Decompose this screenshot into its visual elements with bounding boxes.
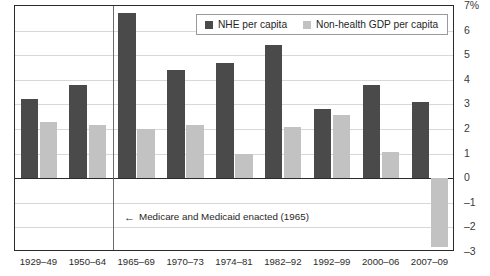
x-axis-tick-label: 2007–09 [405, 256, 454, 268]
legend-item-nhe: NHE per capita [205, 19, 287, 30]
bar-group [308, 6, 357, 250]
legend-label-nhe: NHE per capita [218, 19, 287, 30]
bar-nhe-per-capita [314, 109, 331, 178]
y-axis-tick-label: 4 [464, 74, 470, 84]
x-axis-tick-label: 2000–06 [356, 256, 405, 268]
y-axis-tick-label: 0 [464, 172, 470, 182]
bar-nhe-per-capita [118, 13, 135, 178]
x-axis-tick-label: 1950–64 [63, 256, 112, 268]
legend-label-gdp: Non-health GDP per capita [316, 19, 438, 30]
y-axis-tick-label: 5 [464, 49, 470, 59]
bar-non-health-gdp-per-capita [186, 125, 203, 178]
bar-nhe-per-capita [216, 63, 233, 179]
bar-non-health-gdp-per-capita [333, 115, 350, 178]
x-axis-tick-label: 1992–99 [307, 256, 356, 268]
x-axis-labels: 1929–491950–641965–691970–731974–811982–… [14, 256, 454, 276]
bar-nhe-per-capita [167, 70, 184, 178]
bar-non-health-gdp-per-capita [382, 152, 399, 178]
bar-non-health-gdp-per-capita [40, 122, 57, 179]
x-axis-tick-label: 1982–92 [258, 256, 307, 268]
y-axis-tick-label: –2 [464, 221, 476, 231]
bar-group [357, 6, 406, 250]
x-axis-tick-label: 1974–81 [210, 256, 259, 268]
y-axis-tick-label: 7% [464, 0, 479, 10]
bar-non-health-gdp-per-capita [431, 178, 448, 247]
chart-container: NHE per capita Non-health GDP per capita… [0, 0, 490, 276]
y-axis-tick-label: –1 [464, 197, 476, 207]
medicare-annotation: ← Medicare and Medicaid enacted (1965) [124, 211, 309, 222]
bar-group [15, 6, 64, 250]
legend-item-gdp: Non-health GDP per capita [303, 19, 438, 30]
bar-non-health-gdp-per-capita [284, 127, 301, 179]
bar-nhe-per-capita [69, 85, 86, 178]
dark-square-swatch-icon [205, 21, 213, 29]
bar-non-health-gdp-per-capita [235, 154, 252, 179]
bar-non-health-gdp-per-capita [137, 129, 154, 178]
y-axis-tick-label: 2 [464, 123, 470, 133]
y-axis-tick-label: 6 [464, 25, 470, 35]
chart-legend: NHE per capita Non-health GDP per capita [196, 14, 448, 35]
y-axis-tick-label: –3 [464, 246, 476, 256]
bar-group [406, 6, 455, 250]
y-axis-tick-label: 1 [464, 148, 470, 158]
bar-nhe-per-capita [363, 85, 380, 178]
bar-group [64, 6, 113, 250]
bar-non-health-gdp-per-capita [89, 125, 106, 178]
medicare-annotation-label: Medicare and Medicaid enacted (1965) [139, 211, 309, 222]
y-axis-labels: 7%6543210–1–2–3 [458, 0, 490, 276]
y-axis-tick-label: 3 [464, 98, 470, 108]
x-axis-tick-label: 1929–49 [14, 256, 63, 268]
x-axis-tick-label: 1970–73 [161, 256, 210, 268]
bar-nhe-per-capita [265, 45, 282, 178]
bar-nhe-per-capita [21, 99, 38, 178]
x-axis-tick-label: 1965–69 [112, 256, 161, 268]
arrow-left-icon: ← [124, 212, 135, 222]
light-square-swatch-icon [303, 21, 311, 29]
bar-nhe-per-capita [412, 102, 429, 178]
